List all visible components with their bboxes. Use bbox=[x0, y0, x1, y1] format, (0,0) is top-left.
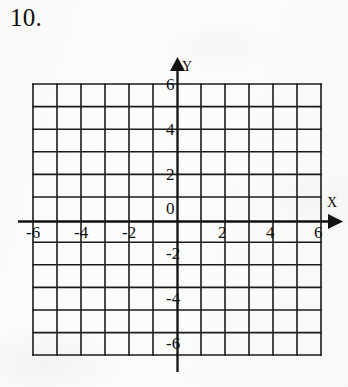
x-tick-label-2: 2 bbox=[218, 224, 227, 241]
x-tick-label-minus-6: -6 bbox=[26, 224, 40, 241]
y-tick-label-minus-2: -2 bbox=[166, 245, 180, 262]
origin-label: 0 bbox=[166, 200, 175, 217]
x-axis bbox=[18, 214, 343, 229]
worksheet-page: 10. bbox=[0, 0, 348, 387]
x-tick-label-4: 4 bbox=[266, 224, 275, 241]
x-tick-label-6: 6 bbox=[314, 224, 323, 241]
coordinate-grid-svg bbox=[0, 0, 348, 387]
x-axis-label: X bbox=[327, 196, 337, 210]
y-tick-label-minus-4: -4 bbox=[166, 290, 180, 307]
y-tick-label-2: 2 bbox=[166, 166, 175, 183]
y-tick-label-6: 6 bbox=[166, 76, 175, 93]
y-tick-label-4: 4 bbox=[166, 121, 175, 138]
x-tick-label-minus-4: -4 bbox=[74, 224, 88, 241]
x-tick-label-minus-2: -2 bbox=[122, 224, 136, 241]
y-tick-label-minus-6: -6 bbox=[166, 335, 180, 352]
coordinate-graph bbox=[0, 0, 348, 387]
y-axis-label: Y bbox=[182, 60, 192, 74]
x-axis-arrowhead bbox=[328, 214, 343, 229]
